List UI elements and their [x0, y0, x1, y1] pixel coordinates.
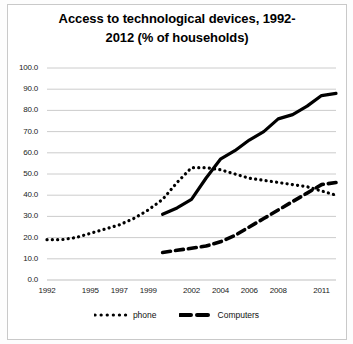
- legend-item-computers[interactable]: Computers: [179, 310, 260, 320]
- y-axis-tick-label: 80.0: [6, 105, 38, 114]
- series-line-phone: [47, 168, 336, 240]
- y-axis-tick-label: 20.0: [6, 233, 38, 242]
- y-axis-tick-label: 90.0: [6, 84, 38, 93]
- y-axis-tick-label: 40.0: [6, 190, 38, 199]
- series-line-solid-series: [163, 93, 336, 214]
- y-axis-tick-label: 0.0: [6, 275, 38, 284]
- y-axis-tick-label: 70.0: [6, 127, 38, 136]
- y-axis-tick-label: 10.0: [6, 254, 38, 263]
- legend-item-phone[interactable]: phone: [94, 310, 157, 320]
- y-axis-tick-label: 30.0: [6, 211, 38, 220]
- x-axis-tick-label: 2011: [305, 286, 339, 295]
- y-axis-tick-label: 60.0: [6, 148, 38, 157]
- legend-swatch-dashed-icon: [179, 311, 213, 319]
- series-line-computers: [163, 182, 336, 252]
- x-axis-tick-label: 1992: [30, 286, 64, 295]
- x-axis-tick-label: 1999: [131, 286, 165, 295]
- chart-figure: Access to technological devices, 1992- 2…: [0, 0, 353, 344]
- legend-label: Computers: [218, 310, 260, 320]
- x-axis-tick-label: 2008: [261, 286, 295, 295]
- chart-legend: phoneComputers: [0, 310, 353, 320]
- legend-swatch-dotted-icon: [94, 311, 128, 319]
- y-axis-tick-label: 50.0: [6, 169, 38, 178]
- legend-label: phone: [133, 310, 157, 320]
- y-axis-tick-label: 100.0: [6, 63, 38, 72]
- data-series-layer: [47, 93, 336, 252]
